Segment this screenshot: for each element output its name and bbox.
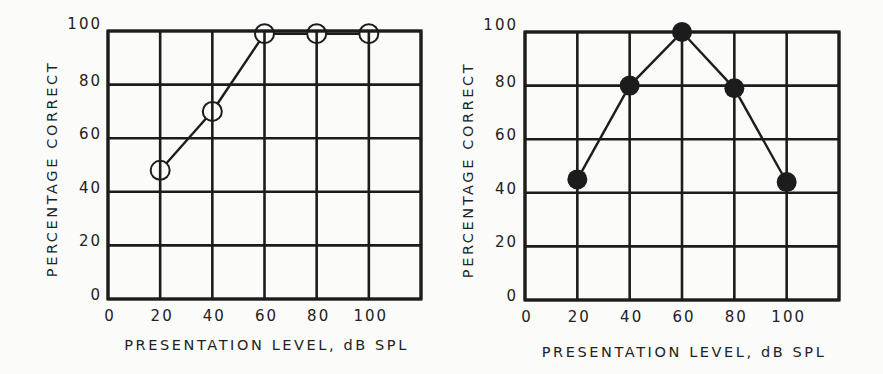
grid (525, 32, 839, 300)
chart-figure: 020406080100020406080100PRESENTATION LEV… (0, 0, 883, 374)
x-tick-label: 40 (620, 308, 643, 326)
y-tick-label: 80 (79, 72, 102, 90)
filled-circle-marker (620, 76, 640, 96)
data-segment (688, 39, 727, 81)
x-axis-title: PRESENTATION LEVEL, dB SPL (542, 344, 827, 360)
data-segment (636, 39, 675, 79)
x-tick-label: 100 (354, 307, 389, 325)
x-tick-label: 40 (203, 307, 226, 325)
x-tick-label: 0 (104, 307, 116, 325)
x-axis-title: PRESENTATION LEVEL, dB SPL (124, 337, 409, 353)
grid (108, 31, 421, 299)
data-segment (739, 97, 782, 174)
x-tick-label: 20 (568, 308, 591, 326)
y-tick-label: 100 (67, 15, 102, 33)
x-tick-label: 60 (672, 308, 695, 326)
x-tick-label: 60 (255, 307, 278, 325)
y-tick-label: 20 (495, 233, 518, 251)
x-tick-label: 100 (771, 308, 806, 326)
x-tick-label: 20 (151, 307, 174, 325)
data-segment (582, 94, 625, 171)
y-tick-label: 40 (79, 179, 102, 197)
data-line (166, 34, 359, 164)
y-tick-label: 0 (90, 286, 102, 304)
filled-circle-marker (567, 169, 587, 189)
data-segment (166, 119, 206, 164)
filled-circle-marker (724, 78, 744, 98)
x-tick-label: 80 (725, 308, 748, 326)
y-axis-title: PERCENTAGE CORRECT (460, 62, 476, 278)
data-segment (218, 42, 260, 104)
y-tick-label: 100 (483, 16, 518, 34)
y-tick-label: 40 (495, 180, 518, 198)
chart-panel-right: 020406080100020406080100PRESENTATION LEV… (460, 16, 839, 360)
x-tick-label: 80 (307, 307, 330, 325)
y-tick-label: 60 (495, 126, 518, 144)
y-tick-label: 20 (79, 232, 102, 250)
filled-circle-marker (777, 172, 797, 192)
y-tick-label: 80 (495, 73, 518, 91)
y-axis-title: PERCENTAGE CORRECT (44, 61, 60, 277)
y-tick-label: 0 (506, 287, 518, 305)
chart-panel-left: 020406080100020406080100PRESENTATION LEV… (44, 15, 421, 353)
x-tick-label: 0 (521, 308, 533, 326)
y-tick-label: 60 (79, 125, 102, 143)
filled-circle-marker (672, 22, 692, 42)
